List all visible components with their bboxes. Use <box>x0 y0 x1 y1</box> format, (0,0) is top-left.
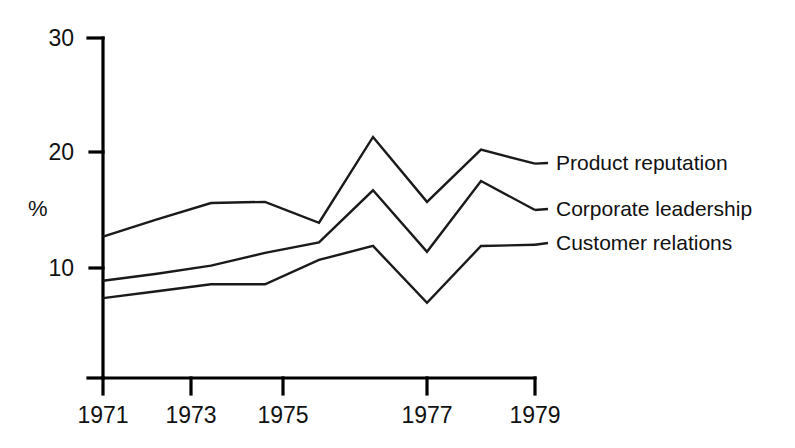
leader-line-corporate-leadership <box>535 209 548 210</box>
series-line-product-reputation <box>103 137 535 237</box>
legend-label-product-reputation: Product reputation <box>556 152 728 173</box>
leader-line-product-reputation <box>535 163 548 164</box>
legend-label-customer-relations: Customer relations <box>556 232 732 253</box>
y-axis-tick-label-20: 20 <box>10 139 74 166</box>
x-axis-tick-label-1975: 1975 <box>238 402 328 429</box>
line-chart: 30 20 10 % 1971 1973 1975 1977 1979 Prod… <box>0 0 795 448</box>
legend-label-corporate-leadership: Corporate leadership <box>556 198 752 219</box>
series-line-corporate-leadership <box>103 181 535 281</box>
leader-line-customer-relations <box>535 243 548 245</box>
chart-series-group <box>103 137 548 303</box>
chart-axes <box>88 38 535 394</box>
y-axis-tick-label-10: 10 <box>10 255 74 282</box>
series-line-customer-relations <box>103 245 535 303</box>
x-axis-tick-label-1973: 1973 <box>146 402 236 429</box>
x-axis-tick-label-1971: 1971 <box>58 402 148 429</box>
x-axis-tick-label-1977: 1977 <box>382 402 472 429</box>
chart-plot-area <box>0 0 795 448</box>
x-axis-tick-label-1979: 1979 <box>490 402 580 429</box>
y-axis-tick-label-30: 30 <box>10 25 74 52</box>
y-axis-title: % <box>28 196 48 222</box>
